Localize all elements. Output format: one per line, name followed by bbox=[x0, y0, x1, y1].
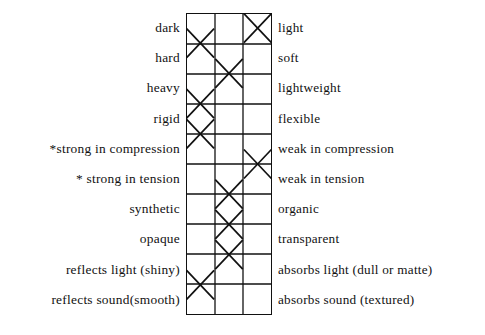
right-pole-label: light bbox=[278, 13, 485, 43]
left-pole-label: * strong in tension bbox=[0, 164, 180, 194]
left-pole-label: reflects sound(smooth) bbox=[0, 285, 180, 315]
right-pole-label: organic bbox=[278, 194, 485, 224]
right-pole-label: soft bbox=[278, 43, 485, 73]
left-pole-label: opaque bbox=[0, 224, 180, 254]
left-pole-label-column: darkhardheavyrigid*strong in compression… bbox=[0, 13, 180, 315]
right-pole-label-column: lightsoftlightweightflexibleweak in comp… bbox=[278, 13, 485, 315]
right-pole-label: absorbs sound (textured) bbox=[278, 285, 485, 315]
right-pole-label: absorbs light (dull or matte) bbox=[278, 255, 485, 285]
rating-grid[interactable] bbox=[186, 13, 272, 315]
right-pole-label: weak in tension bbox=[278, 164, 485, 194]
semantic-differential-chart: darkhardheavyrigid*strong in compression… bbox=[0, 0, 485, 335]
left-pole-label: rigid bbox=[0, 104, 180, 134]
right-pole-label: lightweight bbox=[278, 73, 485, 103]
left-pole-label: hard bbox=[0, 43, 180, 73]
left-pole-label: heavy bbox=[0, 73, 180, 103]
right-pole-label: weak in compression bbox=[278, 134, 485, 164]
left-pole-label: dark bbox=[0, 13, 180, 43]
left-pole-label: reflects light (shiny) bbox=[0, 255, 180, 285]
right-pole-label: flexible bbox=[278, 104, 485, 134]
right-pole-label: transparent bbox=[278, 224, 485, 254]
grid-lines bbox=[187, 14, 271, 314]
left-pole-label: *strong in compression bbox=[0, 134, 180, 164]
left-pole-label: synthetic bbox=[0, 194, 180, 224]
